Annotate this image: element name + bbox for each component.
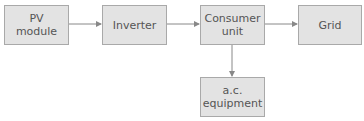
node-ac-equipment: a.c. equipment	[200, 77, 265, 117]
node-consumer-unit: Consumer unit	[200, 5, 265, 45]
node-grid: Grid	[298, 5, 362, 45]
node-pv-module: PV module	[4, 5, 69, 45]
node-inverter: Inverter	[102, 5, 167, 45]
